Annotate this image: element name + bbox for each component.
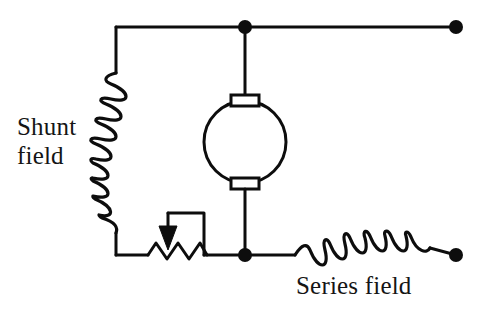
shunt-field-label-line1: Shunt: [17, 113, 76, 140]
shunt-field-label-line2: field: [17, 142, 64, 169]
junction-bottom: [238, 248, 252, 262]
armature-brush-bottom: [231, 178, 259, 189]
shunt-field-coil: [91, 73, 126, 233]
terminal-top-right: [449, 20, 463, 34]
rheostat-arrow-tap: [159, 213, 177, 250]
series-coil-winding: [295, 231, 430, 265]
junction-top: [238, 20, 252, 34]
rheostat-zigzag: [148, 243, 207, 259]
series-field-label: Series field: [296, 271, 412, 300]
shunt-coil-winding: [91, 73, 126, 233]
armature-brush-top: [231, 95, 259, 106]
shunt-field-label: Shuntfield: [17, 112, 76, 170]
series-field-coil: [295, 231, 430, 265]
armature-circle: [204, 101, 286, 183]
terminal-bottom-right: [449, 248, 463, 262]
circuit-diagram: Shuntfield Series field: [0, 0, 486, 323]
